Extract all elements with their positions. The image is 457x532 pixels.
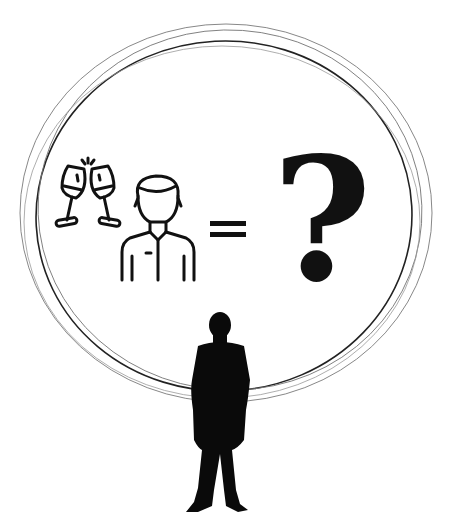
- equals-sign: [210, 221, 246, 237]
- champagne-glasses-icon: [56, 158, 121, 227]
- person-icon: [122, 176, 194, 280]
- person-silhouette: [186, 312, 250, 512]
- question-mark: ?: [272, 120, 372, 320]
- illustration: ?: [0, 0, 457, 532]
- svg-text:?: ?: [272, 120, 372, 320]
